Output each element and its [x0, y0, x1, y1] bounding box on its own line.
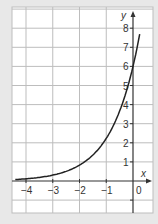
y-tick-label: 2 — [123, 138, 129, 149]
y-tick-label: 1 — [123, 157, 129, 168]
y-tick-label: 8 — [123, 23, 129, 34]
plot-panel — [12, 7, 153, 213]
y-tick-label: 3 — [123, 119, 129, 130]
y-tick-label: 7 — [123, 42, 129, 53]
x-tick-label: −2 — [75, 185, 87, 196]
exponential-graph: −4−3−2−1012345678 x y — [0, 0, 158, 224]
x-tick-label: −4 — [21, 185, 33, 196]
x-tick-label: 0 — [136, 185, 142, 196]
x-tick-label: −3 — [48, 185, 60, 196]
x-tick-label: −1 — [101, 185, 113, 196]
y-axis-label: y — [120, 10, 127, 21]
x-axis-label: x — [140, 168, 147, 179]
y-tick-label: 6 — [123, 61, 129, 72]
